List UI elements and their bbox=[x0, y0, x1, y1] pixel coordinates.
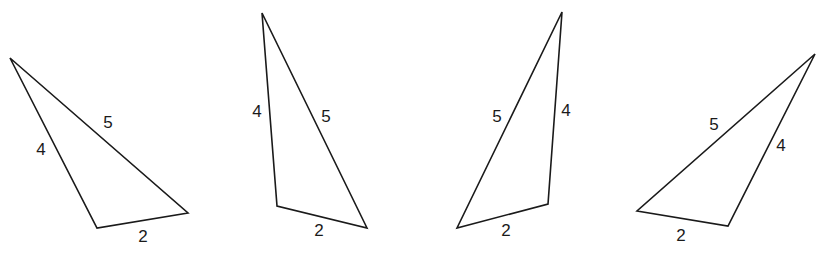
side-label-5: 5 bbox=[492, 107, 501, 126]
side-label-4: 4 bbox=[561, 101, 570, 120]
triangle-3: 5 4 2 bbox=[457, 12, 571, 240]
triangle-4-shape bbox=[637, 54, 815, 226]
side-label-4: 4 bbox=[36, 140, 45, 159]
side-label-5: 5 bbox=[321, 107, 330, 126]
triangle-2-shape bbox=[262, 13, 367, 228]
triangles-diagram: 5 4 2 4 5 2 5 4 2 5 4 2 bbox=[0, 0, 828, 263]
side-label-2: 2 bbox=[138, 227, 147, 246]
triangle-3-shape bbox=[457, 12, 562, 228]
triangle-4: 5 4 2 bbox=[637, 54, 815, 245]
triangle-1: 5 4 2 bbox=[10, 58, 188, 246]
side-label-5: 5 bbox=[103, 113, 112, 132]
side-label-2: 2 bbox=[501, 221, 510, 240]
side-label-4: 4 bbox=[776, 136, 785, 155]
side-label-4: 4 bbox=[252, 102, 261, 121]
side-label-2: 2 bbox=[314, 221, 323, 240]
triangle-2: 4 5 2 bbox=[252, 13, 367, 240]
side-label-5: 5 bbox=[709, 115, 718, 134]
side-label-2: 2 bbox=[676, 226, 685, 245]
